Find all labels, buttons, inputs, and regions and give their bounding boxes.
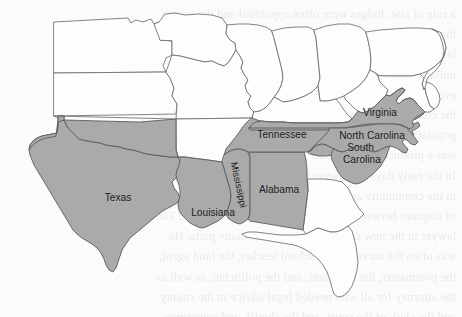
map-page: a rule of law. Judges were often appoint… xyxy=(0,0,462,317)
label-south-carolina-line1: South xyxy=(347,142,374,153)
state-florida xyxy=(242,226,358,297)
label-north-carolina: North Carolina xyxy=(339,130,405,141)
label-south-carolina-line2: Carolina xyxy=(343,153,381,164)
label-louisiana: Louisiana xyxy=(191,207,235,218)
state-nebraska xyxy=(54,18,172,73)
label-south-carolina: South Carolina xyxy=(343,142,381,165)
label-texas: Texas xyxy=(105,192,132,203)
label-tennessee: Tennessee xyxy=(257,129,307,140)
state-kansas xyxy=(54,72,177,116)
label-virginia: Virginia xyxy=(363,107,397,118)
us-southeast-map: Texas Louisiana Mississippi Alabama Tenn… xyxy=(0,0,462,317)
state-georgia xyxy=(303,179,364,234)
label-alabama: Alabama xyxy=(259,184,300,195)
